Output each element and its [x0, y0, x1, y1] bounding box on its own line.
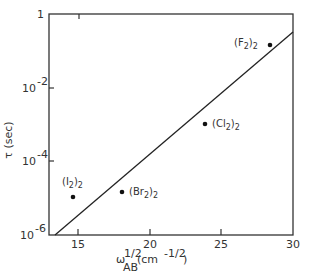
x-axis-ticks — [78, 14, 221, 235]
x-label-units-close: ) — [183, 253, 187, 266]
x-label-units: (cm — [137, 253, 158, 266]
point-br2 — [120, 190, 125, 195]
y-tick-1e-6: 10 — [20, 229, 34, 242]
point-f2 — [268, 43, 273, 48]
x-tick-20: 20 — [143, 238, 157, 251]
x-tick-30: 30 — [286, 238, 300, 251]
point-cl2 — [203, 122, 208, 127]
x-tick-15: 15 — [71, 238, 85, 251]
y-axis-label: τ (sec) — [2, 121, 15, 158]
y-axis-ticks — [49, 88, 54, 161]
data-points — [71, 43, 273, 200]
y-tick-1e-6-exp: -6 — [35, 222, 46, 235]
y-tick-1e-4: 10 — [22, 155, 36, 168]
x-tick-25: 25 — [214, 238, 228, 251]
label-i2: (I2)2 — [62, 176, 83, 190]
point-i2 — [71, 195, 76, 200]
y-tick-1e-4-exp: -4 — [37, 148, 48, 161]
label-cl2: (Cl2)2 — [212, 118, 240, 132]
x-axis-label: ω 1/2 AB (cm -1/2 ) — [116, 247, 187, 274]
chart: 15 20 25 30 1 10 -2 10 -4 10 -6 τ (sec) … — [0, 0, 310, 274]
point-labels: (I2)2 (Br2)2 (Cl2)2 (F2)2 — [62, 37, 258, 200]
y-tick-1e-2-exp: -2 — [37, 75, 48, 88]
label-f2: (F2)2 — [234, 37, 258, 51]
y-tick-1e-2: 10 — [22, 82, 36, 95]
x-label-sub: AB — [123, 261, 138, 274]
fit-line — [55, 32, 293, 235]
y-tick-labels: 1 10 -2 10 -4 10 -6 — [20, 8, 48, 242]
y-tick-1: 1 — [37, 8, 44, 21]
label-br2: (Br2)2 — [129, 186, 158, 200]
